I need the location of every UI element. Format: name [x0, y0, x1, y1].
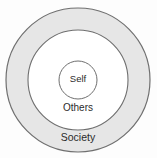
label-self: Self [70, 73, 87, 84]
diagram-svg-canvas: Self Others Society [0, 0, 157, 158]
label-society: Society [61, 131, 96, 143]
concentric-circles-diagram: Self Others Society [0, 0, 157, 158]
label-others: Others [63, 102, 93, 113]
